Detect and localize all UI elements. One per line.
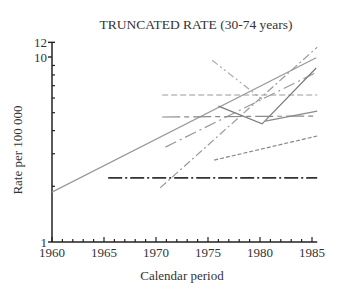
x-tick-label: 1965: [91, 245, 117, 260]
series-longdash-dot-rising: [165, 72, 317, 147]
chart-title: TRUNCATED RATE (30-74 years): [99, 17, 292, 32]
x-tick-label: 1960: [39, 245, 65, 260]
x-axis-label: Calendar period: [140, 268, 224, 283]
chart-canvas: TRUNCATED RATE (30-74 years) 11012196019…: [0, 0, 342, 290]
series-dashdot-steep: [160, 47, 317, 188]
x-tick-label: 1980: [247, 245, 273, 260]
axes: 11012196019651970197519801985: [34, 35, 325, 260]
series-lines: [52, 47, 317, 192]
y-tick-label: 12: [34, 35, 47, 50]
x-tick-label: 1985: [299, 245, 325, 260]
series-dashdotdot-descending: [212, 60, 262, 99]
x-tick-label: 1970: [143, 245, 169, 260]
y-tick-label: 10: [34, 50, 47, 65]
y-axis-label: Rate per 100 000: [10, 105, 25, 194]
series-solid-long: [52, 58, 316, 192]
series-shortdash-rising: [214, 136, 317, 160]
x-tick-label: 1975: [195, 245, 221, 260]
